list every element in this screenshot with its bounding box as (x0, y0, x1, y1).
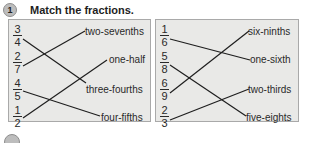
matching-lines (9, 20, 152, 123)
matching-lines (156, 20, 300, 123)
left-matching-panel: 3 4 2 7 4 5 1 2 two-sevenths one-half th… (8, 19, 151, 122)
exercise-title: Match the fractions. (30, 4, 134, 16)
next-exercise-badge (4, 134, 20, 143)
exercise-number-badge: 1 (3, 3, 17, 17)
right-matching-panel: 1 6 5 8 6 9 2 3 six-ninths one-sixth two… (155, 19, 299, 122)
